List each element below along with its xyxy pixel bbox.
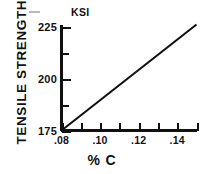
data-line [62,25,197,131]
tick-marks [62,28,198,132]
chart-figure: TENSILE STRENGTH KSI % C 175200225 .08.1… [0,0,206,174]
plot-area [0,0,206,174]
data-series-group [62,25,197,131]
